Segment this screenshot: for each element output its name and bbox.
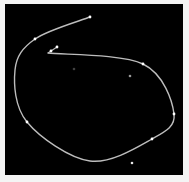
curve-control-point[interactable] <box>173 113 176 116</box>
scene-svg <box>0 0 189 182</box>
curve-control-point[interactable] <box>56 46 59 49</box>
curve-control-point[interactable] <box>89 16 92 19</box>
freehand-curve <box>15 17 175 161</box>
curve-control-point[interactable] <box>34 38 37 41</box>
curve-control-point[interactable] <box>151 138 154 141</box>
curve-control-point[interactable] <box>50 50 53 53</box>
curve-tail <box>48 47 57 53</box>
curve-control-point[interactable] <box>142 63 145 66</box>
isolated-point <box>73 68 76 71</box>
isolated-point <box>131 162 134 165</box>
curve-control-point[interactable] <box>26 121 29 124</box>
isolated-point <box>129 75 132 78</box>
